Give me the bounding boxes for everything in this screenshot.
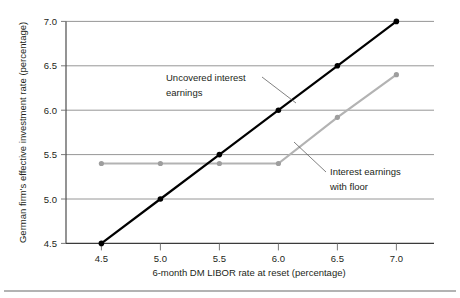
- x-axis-title: 6-month DM LIBOR rate at reset (percenta…: [152, 267, 345, 278]
- x-tick-label-6.5: 6.5: [331, 253, 344, 264]
- floor-point-6.5: [335, 115, 340, 120]
- y-tick-label-6.5: 6.5: [44, 60, 57, 71]
- y-tick-label-5.0: 5.0: [44, 194, 57, 205]
- y-tick-label-6.0: 6.0: [44, 105, 57, 116]
- annotation-uncovered-line2: earnings: [166, 87, 203, 98]
- uncovered-point-7.0: [394, 19, 400, 25]
- x-tick-label-5.5: 5.5: [213, 253, 226, 264]
- y-tick-label-5.5: 5.5: [44, 149, 57, 160]
- line-chart: 7.0 6.5 6.0 5.5 5.0 4.5 4.5 5.0 5.5 6.0 …: [0, 0, 460, 298]
- uncovered-point-5.0: [158, 196, 164, 202]
- floor-point-6.0: [276, 161, 281, 166]
- x-tick-label-5.0: 5.0: [154, 253, 167, 264]
- x-tick-label-6.0: 6.0: [272, 253, 285, 264]
- y-axis-title: German firm's effective investment rate …: [17, 22, 28, 243]
- floor-point-4.5: [99, 161, 104, 166]
- y-tick-label-7.0: 7.0: [44, 16, 57, 27]
- annotation-floor-line2: with floor: [329, 181, 368, 192]
- floor-point-7.0: [394, 72, 399, 77]
- annotation-uncovered-line1: Uncovered interest: [166, 72, 246, 83]
- floor-point-5.5: [217, 161, 222, 166]
- x-tick-label-4.5: 4.5: [95, 253, 108, 264]
- chart-figure: 7.0 6.5 6.0 5.5 5.0 4.5 4.5 5.0 5.5 6.0 …: [0, 0, 460, 298]
- annotation-floor-line1: Interest earnings: [330, 166, 401, 177]
- x-tick-label-7.0: 7.0: [390, 253, 403, 264]
- y-tick-label-4.5: 4.5: [44, 238, 57, 249]
- uncovered-point-6.0: [276, 107, 282, 113]
- uncovered-point-4.5: [99, 241, 105, 247]
- floor-point-5.0: [158, 161, 163, 166]
- uncovered-point-5.5: [217, 152, 223, 158]
- uncovered-point-6.5: [335, 63, 341, 69]
